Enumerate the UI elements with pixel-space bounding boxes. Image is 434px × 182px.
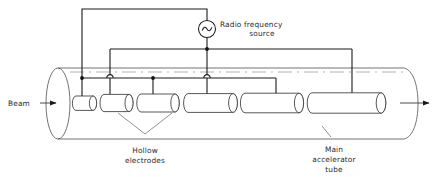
hollow-electrodes-label-line1: Hollow — [132, 146, 158, 155]
main-tube-label-line2: accelerator — [312, 155, 356, 164]
tube-left-face — [46, 68, 70, 139]
junction-dot-e1 — [80, 76, 84, 80]
main-tube-label-line1: Main — [325, 145, 343, 154]
main-tube-leader — [322, 126, 331, 137]
rf-wiring — [80, 9, 352, 96]
main-tube-callout: Main accelerator tube — [312, 126, 356, 174]
diagram-canvas: Beam — [0, 0, 434, 182]
rf-source-label-line1: Radio frequency — [220, 20, 283, 29]
accelerator-diagram: Beam — [0, 0, 434, 182]
electrode-3 — [137, 94, 179, 112]
hollow-electrodes-leader — [118, 113, 172, 134]
hollow-electrodes-label-line2: electrodes — [125, 156, 165, 165]
electrode-4 — [184, 94, 238, 113]
rf-source-label-line2: source — [249, 29, 275, 38]
junction-dot-source — [205, 47, 209, 51]
electrode-2 — [100, 94, 133, 111]
junction-dot-e3 — [151, 76, 155, 80]
main-tube-label-line3: tube — [325, 165, 343, 174]
beam-label: Beam — [8, 99, 30, 108]
beam-entry: Beam — [8, 99, 56, 108]
radio-frequency-source[interactable]: Radio frequency source — [199, 20, 283, 39]
electrode-1 — [72, 96, 96, 110]
electrode-5 — [240, 93, 303, 113]
hollow-electrodes-group — [72, 93, 385, 113]
tube-right-cap — [404, 68, 418, 139]
electrode-6 — [307, 93, 386, 113]
